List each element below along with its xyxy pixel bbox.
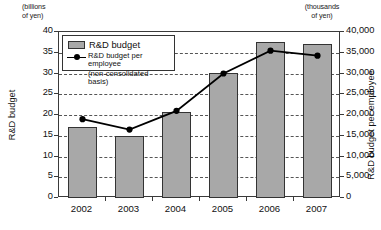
right-tick-mark: [340, 31, 344, 32]
x-tick-mark: [199, 197, 200, 201]
right-tick-mark: [340, 197, 344, 198]
x-tick-label-2007: 2007: [297, 203, 337, 214]
left-tick-mark: [54, 73, 58, 74]
right-tick-mark: [340, 73, 344, 74]
x-tick-mark: [152, 197, 153, 201]
line-marker-2003: [126, 126, 132, 132]
right-tick-label: 5,000: [346, 170, 381, 180]
left-tick-mark: [54, 135, 58, 136]
left-tick-label: 25: [27, 87, 53, 97]
legend-line-sublabel: (non-consolidated basis): [67, 70, 170, 87]
left-tick-label: 40: [27, 25, 53, 35]
line-marker-2007: [314, 53, 320, 59]
x-tick-mark: [246, 197, 247, 201]
line-marker-2006: [267, 48, 273, 54]
left-tick-label: 10: [27, 150, 53, 160]
right-tick-label: 15,000: [346, 129, 381, 139]
x-tick-label-2003: 2003: [109, 203, 149, 214]
x-tick-mark: [105, 197, 106, 201]
left-tick-label: 0: [27, 191, 53, 201]
left-tick-label: 35: [27, 46, 53, 56]
footer-artifact: [96, 218, 311, 226]
left-tick-mark: [54, 52, 58, 53]
legend: R&D budget R&D budget per employee (non-…: [62, 35, 175, 71]
right-tick-label: 0: [346, 191, 381, 201]
left-tick-mark: [54, 114, 58, 115]
left-tick-label: 30: [27, 67, 53, 77]
right-tick-label: 10,000: [346, 150, 381, 160]
right-tick-label: 25,000: [346, 87, 381, 97]
legend-item-line: R&D budget per employee: [67, 51, 170, 69]
right-tick-mark: [340, 52, 344, 53]
line-marker-2002: [79, 116, 85, 122]
left-tick-label: 20: [27, 108, 53, 118]
right-tick-label: 20,000: [346, 108, 381, 118]
left-tick-mark: [54, 31, 58, 32]
left-tick-mark: [54, 176, 58, 177]
left-tick-mark: [54, 156, 58, 157]
right-axis-unit-caption: (thousands of yen): [291, 3, 353, 20]
right-axis-title: R&D budget per employee: [366, 62, 376, 188]
right-tick-label: 35,000: [346, 46, 381, 56]
x-tick-label-2002: 2002: [62, 203, 102, 214]
legend-bar-label: R&D budget: [89, 39, 140, 50]
x-tick-label-2006: 2006: [250, 203, 290, 214]
right-tick-mark: [340, 156, 344, 157]
left-tick-label: 5: [27, 170, 53, 180]
left-axis-title: R&D budget: [7, 75, 17, 155]
left-tick-label: 15: [27, 129, 53, 139]
legend-bar-swatch-icon: [68, 41, 85, 49]
x-tick-mark: [293, 197, 294, 201]
left-axis-unit-caption: (billions of yen): [22, 3, 68, 20]
right-tick-mark: [340, 114, 344, 115]
line-marker-2004: [173, 108, 179, 114]
line-marker-2005: [220, 70, 226, 76]
right-tick-mark: [340, 176, 344, 177]
legend-line-marker-icon: [67, 53, 86, 62]
legend-line-label: R&D budget per employee: [88, 51, 170, 69]
right-tick-label: 30,000: [346, 67, 381, 77]
left-tick-mark: [54, 197, 58, 198]
right-tick-mark: [340, 93, 344, 94]
x-tick-label-2004: 2004: [156, 203, 196, 214]
left-tick-mark: [54, 93, 58, 94]
right-tick-mark: [340, 135, 344, 136]
x-tick-label-2005: 2005: [203, 203, 243, 214]
right-tick-label: 40,000: [346, 25, 381, 35]
legend-item-bar: R&D budget: [67, 39, 170, 50]
